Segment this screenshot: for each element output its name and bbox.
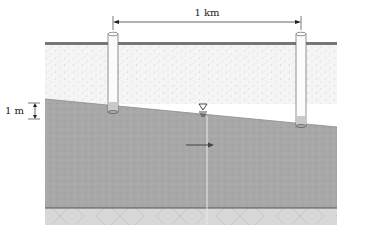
well-left: [108, 32, 118, 113]
unsaturated-zone: [45, 44, 337, 104]
saturated-aquifer: [45, 99, 337, 208]
vertical-dimension: [28, 103, 40, 119]
arrow-down-icon: [33, 115, 37, 119]
aquifer-diagram: 1 km 1 m: [0, 0, 382, 236]
arrow-up-icon: [33, 103, 37, 107]
water-table-triangle-icon: [199, 104, 207, 116]
distance-label: 1 km: [194, 7, 220, 18]
well-right: [296, 32, 306, 127]
bedrock-layer: [45, 208, 337, 225]
ground-surface: [45, 42, 337, 45]
arrow-left-icon: [113, 20, 119, 24]
arrow-right-icon: [295, 20, 301, 24]
drop-label: 1 m: [5, 105, 25, 116]
horizontal-dimension: [113, 16, 301, 30]
